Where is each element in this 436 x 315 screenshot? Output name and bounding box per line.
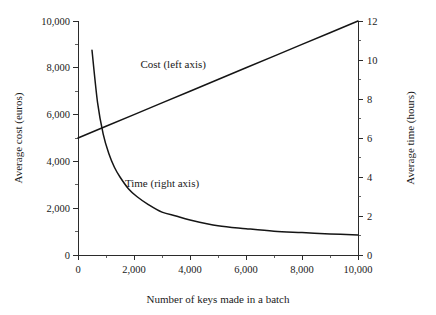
y2-axis-tick-label: 10: [367, 55, 378, 66]
y2-axis-tick-label: 8: [367, 94, 372, 105]
y2-axis-tick-label: 0: [367, 250, 372, 261]
y-axis-tick-label: 4,000: [46, 156, 70, 167]
y2-axis-title: Average time (hours): [404, 91, 417, 185]
cost-series-label: Cost (left axis): [141, 58, 207, 71]
x-axis-tick-label: 10,000: [344, 264, 373, 275]
y2-axis-tick-label: 12: [367, 16, 378, 27]
x-axis-tick-label: 6,000: [234, 264, 258, 275]
y2-axis-tick-label: 4: [367, 172, 373, 183]
time-series-label: Time (right axis): [125, 177, 199, 190]
x-axis-tick-label: 0: [75, 264, 80, 275]
x-axis-tick-label: 2,000: [122, 264, 146, 275]
x-axis-tick-label: 8,000: [290, 264, 314, 275]
y-axis-tick-label: 10,000: [41, 16, 70, 27]
chart-figure: 02,0004,0006,0008,00010,00002468101202,0…: [0, 0, 436, 315]
y-axis-tick-label: 0: [65, 250, 70, 261]
cost-time-line-chart: 02,0004,0006,0008,00010,00002468101202,0…: [0, 0, 436, 315]
y-axis-tick-label: 2,000: [46, 203, 70, 214]
y-axis-title: Average cost (euros): [12, 92, 25, 183]
x-axis-title: Number of keys made in a batch: [147, 293, 290, 305]
y2-axis-tick-label: 2: [367, 211, 372, 222]
y-axis-tick-label: 8,000: [46, 62, 70, 73]
y2-axis-tick-label: 6: [367, 133, 372, 144]
x-axis-tick-label: 4,000: [178, 264, 202, 275]
y-axis-tick-label: 6,000: [46, 109, 70, 120]
